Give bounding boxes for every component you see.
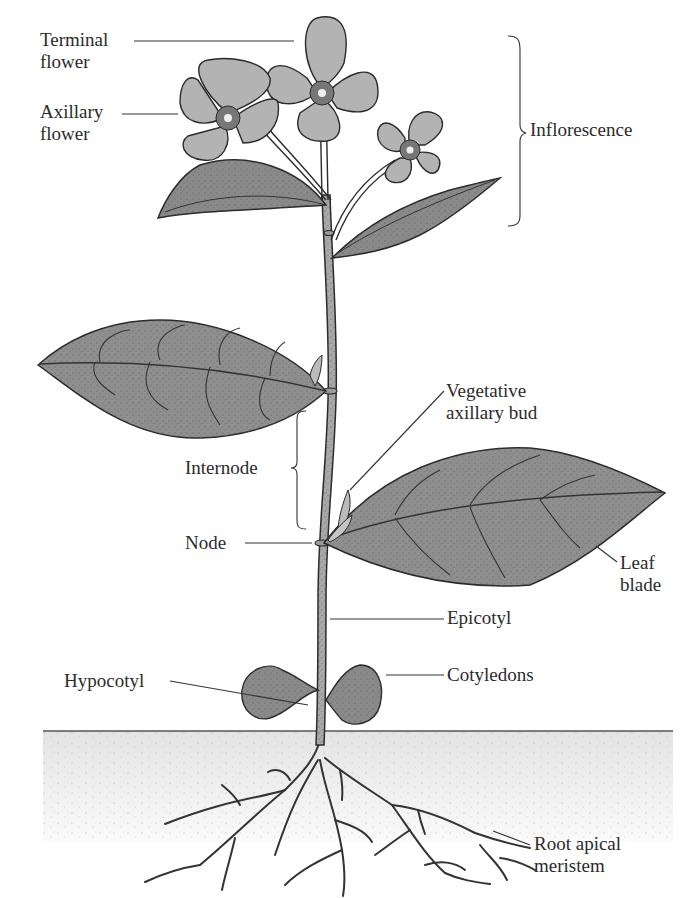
terminal-flower [267,17,378,141]
label-hypocotyl: Hypocotyl [64,670,144,692]
axillary-flower-left [180,59,278,161]
inflorescence-bracket [508,36,526,226]
label-axillary-flower: Axillary flower [40,101,103,145]
label-root-apical-meristem: Root apical meristem [534,833,621,877]
label-inflorescence: Inflorescence [530,119,632,141]
leader-leaf-blade [596,546,617,562]
stem [315,195,337,745]
right-leaf-blade [324,448,665,586]
soil [43,731,673,841]
plant-anatomy-diagram: Terminal flower Axillary flower Inflores… [0,0,698,898]
label-leaf-blade: Leaf blade [620,552,661,596]
label-cotyledons: Cotyledons [447,664,534,686]
axillary-flower-right [378,112,443,183]
label-internode: Internode [185,457,258,479]
label-terminal-flower: Terminal flower [40,29,108,73]
cotyledons [242,665,382,724]
internode-bracket [291,411,306,529]
label-node: Node [185,532,226,554]
left-leaf [38,320,326,438]
label-vegetative-axillary-bud: Vegetative axillary bud [446,380,537,424]
label-epicotyl: Epicotyl [447,607,511,629]
